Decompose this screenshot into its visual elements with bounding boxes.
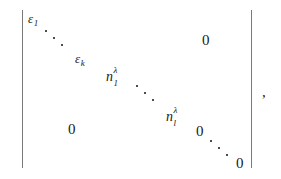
determinant-left-bar <box>22 10 23 168</box>
matrix-entry-epsilon-1: ε1 <box>28 12 38 25</box>
n-1-subscript: 1 <box>114 79 119 88</box>
n-l-superscript-lambda: λ <box>174 106 178 115</box>
n-1-base: n <box>106 69 113 84</box>
matrix-entry-n-l-lambda: nλl <box>166 110 179 124</box>
diagonal-dots-icon-3 <box>209 139 231 157</box>
determinant-right-bar <box>251 10 252 168</box>
matrix-entry-epsilon-k: εk <box>75 52 84 65</box>
matrix-block-zero-lower-left: 0 <box>68 122 76 137</box>
matrix-entry-diagonal-zero-last: 0 <box>236 156 244 171</box>
matrix-block-zero-upper-right: 0 <box>202 33 210 48</box>
n-1-superscript-lambda: λ <box>114 66 118 75</box>
epsilon-1-subscript: 1 <box>34 18 39 28</box>
epsilon-k-base: ε <box>75 51 80 66</box>
n-l-subscript: l <box>174 119 177 128</box>
matrix-entry-n-1-lambda: nλ1 <box>106 70 119 84</box>
determinant-expression: ε1 εk nλ1 nλl 0 0 0 0 , <box>0 0 281 179</box>
epsilon-k-subscript: k <box>81 58 85 68</box>
matrix-entry-diagonal-zero-first: 0 <box>196 124 204 139</box>
diagonal-dots-icon-1 <box>44 29 66 47</box>
n-l-base: n <box>166 109 173 124</box>
trailing-comma: , <box>262 85 266 100</box>
epsilon-1-base: ε <box>28 11 33 26</box>
diagonal-dots-icon-2 <box>135 84 157 102</box>
